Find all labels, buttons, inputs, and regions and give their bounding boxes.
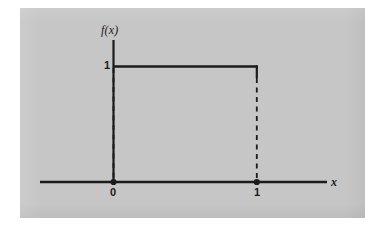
y-axis-label: f(x) <box>101 24 118 36</box>
x-tick-label-1: 1 <box>252 187 262 198</box>
x-axis-dot-1 <box>254 179 260 185</box>
figure-root: f(x) 1 0 1 x <box>0 0 387 234</box>
plot-graphics <box>0 0 387 234</box>
y-tick-label-1: 1 <box>101 60 110 71</box>
x-axis-label: x <box>331 176 337 188</box>
x-axis-dot-0 <box>110 179 116 185</box>
x-tick-label-0: 0 <box>108 187 118 198</box>
